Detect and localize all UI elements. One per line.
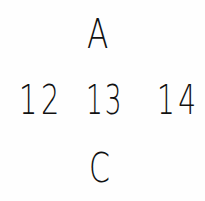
letter-bottom: C [89,148,111,188]
handwritten-ambiguous-figure: A 12 13 14 C [0,0,205,201]
center-ambiguous-glyph: 13 [86,80,124,120]
number-right: 14 [157,80,200,120]
number-left: 12 [19,80,63,120]
letter-top: A [87,14,110,54]
